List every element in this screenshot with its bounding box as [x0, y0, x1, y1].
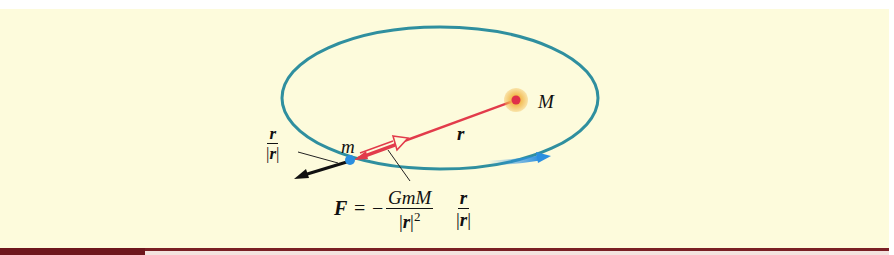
orbit-diagram: [0, 0, 894, 255]
formula-main-fraction: GmM |r|2: [386, 188, 433, 231]
bottom-rule-shadow: [145, 251, 889, 255]
orbiting-mass-label: m: [341, 137, 355, 156]
formula-minus: −: [372, 198, 383, 218]
formula-unit-denominator: |r|: [456, 209, 471, 229]
formula-numerator: GmM: [386, 188, 433, 209]
unit-vector-label: r |r|: [266, 125, 279, 162]
formula-denominator: |r|2: [399, 209, 421, 231]
position-vector-r: [358, 100, 516, 158]
formula-lhs: F: [334, 198, 347, 218]
bottom-rule-accent: [0, 248, 145, 255]
central-mass-label: M: [538, 92, 554, 111]
unit-vector-arrow: [304, 161, 350, 175]
formula-unit-fraction: r |r|: [456, 188, 471, 229]
velocity-arrow: [488, 158, 540, 163]
position-vector-label: r: [457, 124, 464, 143]
unit-vector-arrowhead: [294, 169, 309, 179]
unit-vector-numerator: r: [267, 125, 278, 144]
central-mass-core: [512, 96, 521, 105]
unit-vector-denominator: |r|: [266, 144, 279, 162]
unit-label-leader-line: [298, 152, 338, 163]
formula-unit-numerator: r: [458, 188, 469, 209]
velocity-arrowhead: [536, 152, 551, 163]
formula-equals: =: [354, 198, 365, 218]
